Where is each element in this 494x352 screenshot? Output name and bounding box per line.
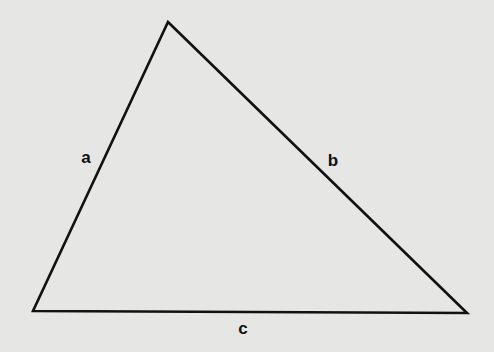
triangle-figure — [0, 0, 494, 352]
side-label-c: c — [238, 320, 247, 337]
side-label-a: a — [81, 149, 90, 166]
triangle-shape — [33, 22, 467, 313]
diagram-canvas: a b c — [0, 0, 494, 352]
side-label-b: b — [328, 152, 338, 169]
